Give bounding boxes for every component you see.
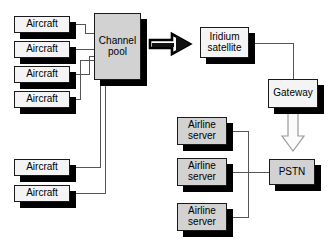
node-label: Airline server [188,120,216,142]
node-label: Aircraft [26,162,58,173]
node-aircraft-5[interactable]: Aircraft [14,159,70,176]
node-label: Aircraft [26,94,58,105]
node-gateway[interactable]: Gateway [268,79,318,108]
node-iridium-satellite[interactable]: Iridium satellite [200,27,249,58]
wire-iridium-to-gateway [249,43,293,79]
node-label: Airline server [188,161,216,183]
diagram-canvas: Aircraft Aircraft Aircraft Aircraft Airc… [0,0,335,251]
node-aircraft-4[interactable]: Aircraft [14,91,70,108]
node-airline-server-3[interactable]: Airline server [177,203,227,231]
node-channel-pool[interactable]: Channel pool [94,13,141,80]
wire-airline-server-1 [227,131,269,172]
node-aircraft-2[interactable]: Aircraft [14,41,70,58]
node-label: PSTN [279,167,306,178]
block-arrow-right-icon [150,34,190,54]
node-label: Iridium satellite [208,32,242,54]
node-label: Aircraft [26,188,58,199]
node-label: Aircraft [26,19,58,30]
node-pstn[interactable]: PSTN [269,159,315,185]
node-label: Gateway [273,88,312,99]
wire-aircraft-5 [70,80,100,167]
node-airline-server-2[interactable]: Airline server [177,158,227,186]
node-label: Aircraft [26,69,58,80]
node-airline-server-1[interactable]: Airline server [177,117,227,145]
hollow-arrow-down-icon [282,110,304,151]
node-label: Channel pool [99,36,136,58]
node-label: Aircraft [26,44,58,55]
node-aircraft-6[interactable]: Aircraft [14,185,70,202]
node-aircraft-3[interactable]: Aircraft [14,66,70,83]
node-label: Airline server [188,206,216,228]
node-aircraft-1[interactable]: Aircraft [14,16,70,33]
